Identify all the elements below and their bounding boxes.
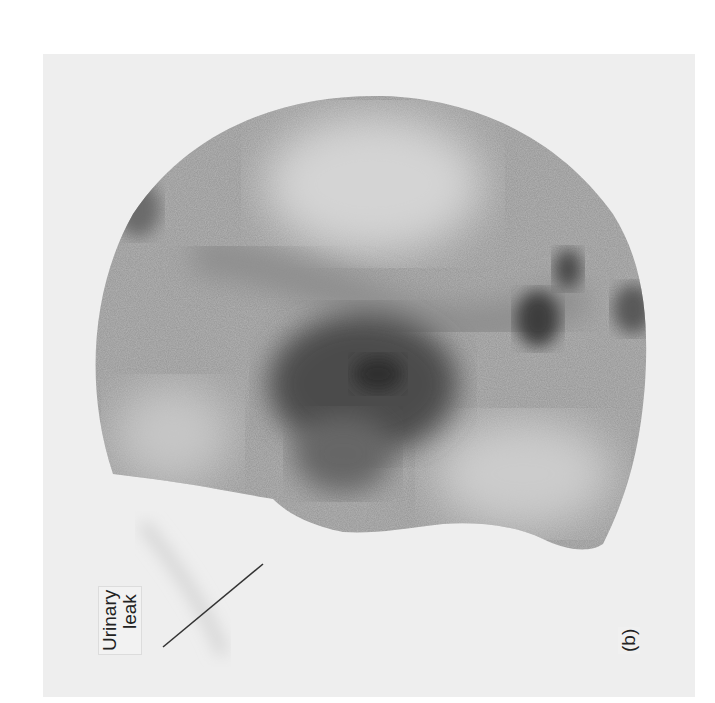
label-line-2: leak [120, 590, 140, 651]
label-line-1: Urinary [100, 590, 120, 651]
panel-letter-label: (b) [618, 627, 640, 654]
scan-panel: Urinary leak (b) [43, 54, 695, 697]
urinary-leak-label: Urinary leak [98, 586, 142, 655]
